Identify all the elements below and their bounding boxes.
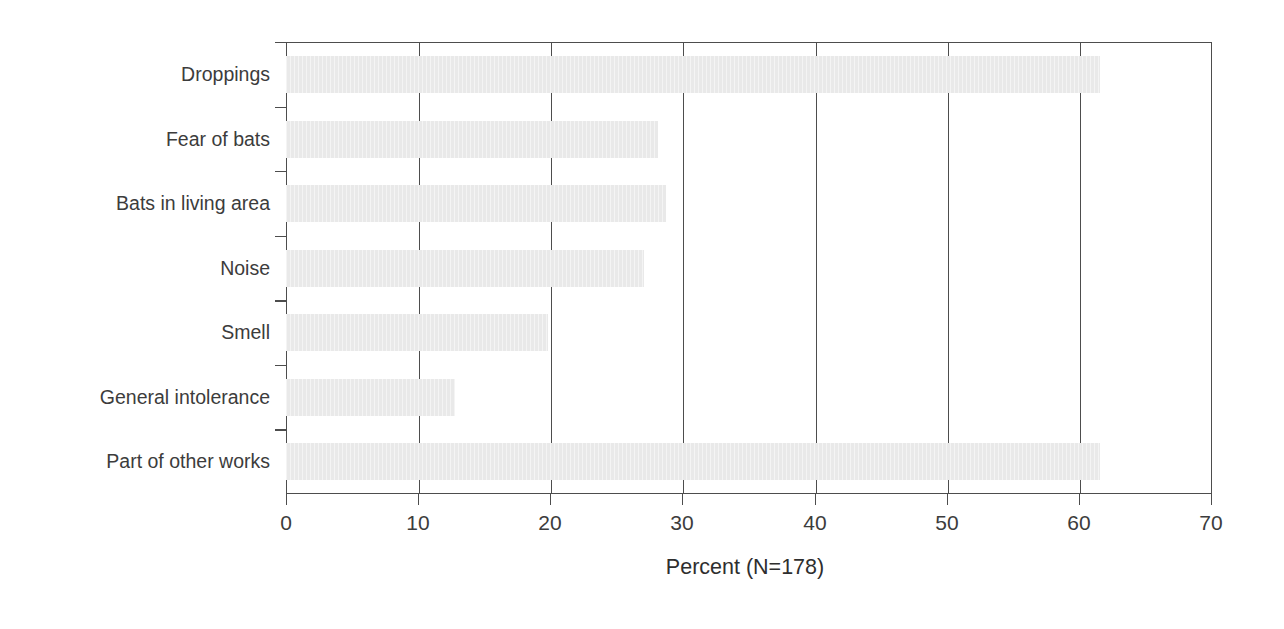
bar-band (286, 171, 1212, 236)
bars-layer (286, 42, 1212, 494)
bar-band (286, 107, 1212, 172)
x-axis-tick-label: 60 (1049, 510, 1109, 536)
bar-band (286, 236, 1212, 301)
x-tick (682, 494, 683, 505)
x-tick (1211, 494, 1212, 505)
bar-part-of-other-works (286, 443, 1100, 480)
bar-band (286, 300, 1212, 365)
bar-band (286, 429, 1212, 494)
y-tick (275, 429, 287, 430)
x-axis-title-text: Percent (N=178) (666, 555, 824, 579)
x-axis-title: Percent (N=178) (0, 555, 1284, 580)
x-axis-tick-label: 50 (917, 510, 977, 536)
bar-noise (286, 250, 644, 287)
x-tick (947, 494, 948, 505)
bar-band (286, 365, 1212, 430)
y-axis-label-general-intolerance: General intolerance (100, 386, 270, 408)
x-tick (550, 494, 551, 505)
x-axis-tick-label: 30 (652, 510, 712, 536)
y-tick (275, 300, 287, 301)
bar-chart: Droppings Fear of bats Bats in living ar… (0, 0, 1284, 629)
x-axis-tick-label: 0 (256, 510, 316, 536)
bar-band (286, 42, 1212, 107)
y-axis-label-fear-of-bats: Fear of bats (166, 128, 270, 150)
y-axis-label-droppings: Droppings (181, 63, 270, 85)
x-axis-tick-label: 40 (785, 510, 845, 536)
x-axis-tick-label: 10 (388, 510, 448, 536)
x-tick (815, 494, 816, 505)
y-tick (275, 365, 287, 366)
x-axis-tick-label: 20 (520, 510, 580, 536)
y-axis-label-part-of-other-works: Part of other works (106, 450, 270, 472)
bar-bats-in-living-area (286, 185, 666, 222)
x-tick (1079, 494, 1080, 505)
y-tick (275, 107, 287, 108)
y-axis-label-noise: Noise (220, 257, 270, 279)
x-axis-tick-label: 70 (1181, 510, 1241, 536)
y-tick (275, 42, 287, 43)
y-tick (275, 171, 287, 172)
x-tick (286, 494, 287, 505)
y-axis-label-bats-in-living-area: Bats in living area (116, 192, 270, 214)
bar-general-intolerance (286, 379, 455, 416)
bar-smell (286, 314, 548, 351)
bar-fear-of-bats (286, 121, 658, 158)
y-axis-label-smell: Smell (221, 321, 270, 343)
y-tick (275, 236, 287, 237)
x-tick (418, 494, 419, 505)
bar-droppings (286, 56, 1100, 93)
